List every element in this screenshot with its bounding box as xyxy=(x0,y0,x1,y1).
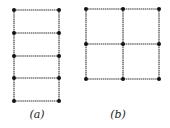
node-dot xyxy=(157,77,161,81)
grid-b xyxy=(84,7,161,81)
label-a: (a) xyxy=(29,108,44,121)
node-dot xyxy=(57,8,61,12)
node-dot xyxy=(84,77,88,81)
node-dot xyxy=(12,54,16,58)
node-dot xyxy=(12,8,16,12)
node-dot xyxy=(121,77,125,81)
node-dot xyxy=(157,42,161,46)
node-dot xyxy=(121,42,125,46)
node-dot xyxy=(57,54,61,58)
grid-a xyxy=(12,8,61,103)
node-dot xyxy=(157,7,161,11)
node-dot xyxy=(12,76,16,80)
node-dot xyxy=(57,31,61,35)
node-dot xyxy=(84,42,88,46)
node-dot xyxy=(12,99,16,103)
grid-diagrams xyxy=(0,0,170,128)
node-dot xyxy=(12,31,16,35)
label-b: (b) xyxy=(110,108,126,121)
node-dot xyxy=(84,7,88,11)
node-dot xyxy=(57,99,61,103)
node-dot xyxy=(121,7,125,11)
node-dot xyxy=(57,76,61,80)
